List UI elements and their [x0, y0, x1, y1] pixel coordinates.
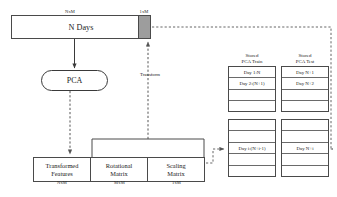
- table-row: [282, 120, 328, 131]
- table-row: [229, 154, 275, 165]
- table-row: Day N+i: [282, 143, 328, 154]
- matrix-label-line2: Matrix: [110, 170, 127, 177]
- stored-pca-test-top-table: Day N+1 Day N+2: [281, 66, 329, 112]
- table-row: Day N+1: [282, 67, 328, 78]
- diagram-canvas: N Days NxM 1xM PCA Transform Transformed…: [0, 0, 337, 197]
- stored-pca-train-top-table: Day 1:N Day 2:(N+1): [228, 66, 276, 112]
- table-row: [229, 90, 275, 101]
- table-row: [282, 101, 328, 111]
- stored-pca-test-bottom-table: Day N+i: [281, 119, 329, 177]
- table-row: Day i:(N+i-1): [229, 143, 275, 154]
- edge-matrices-to-tables: [206, 149, 224, 163]
- dim-label-transformed-features: NxM: [33, 179, 91, 186]
- dim-label-latest-day: 1xM: [131, 8, 157, 15]
- matrix-label-line2: Matrix: [167, 170, 184, 177]
- dim-label-rotational-matrix: MxM: [91, 179, 148, 186]
- table-row: [229, 131, 275, 142]
- dim-label-scaling-matrix: 1xM: [148, 179, 205, 186]
- table-row: [229, 120, 275, 131]
- dim-label-ndays: NxM: [40, 8, 100, 15]
- table-row: Day 1:N: [229, 67, 275, 78]
- table-row: [229, 166, 275, 176]
- matrix-label-line2: Features: [51, 170, 73, 177]
- table-row: [282, 166, 328, 176]
- latest-day-block: [138, 15, 151, 39]
- n-days-bar: N Days: [11, 15, 151, 39]
- bracket-matrices: [92, 139, 204, 157]
- table-row: Day N+2: [282, 78, 328, 89]
- stored-pca-test-header: Stored PCA Test: [281, 53, 329, 65]
- table-row: [282, 154, 328, 165]
- table-row: [282, 90, 328, 101]
- header-line2: PCA Test: [281, 59, 329, 65]
- transform-edge-label: Transform: [140, 70, 180, 79]
- pca-label: PCA: [67, 76, 83, 85]
- table-row: [282, 131, 328, 142]
- table-row: Day 2:(N+1): [229, 78, 275, 89]
- matrix-label-line1: Transformed: [46, 162, 79, 169]
- table-row: [229, 101, 275, 111]
- pca-node: PCA: [41, 70, 108, 91]
- matrix-label-line1: Rotational: [106, 162, 133, 169]
- header-line2: PCA Train: [228, 59, 276, 65]
- stored-pca-train-bottom-table: Day i:(N+i-1): [228, 119, 276, 177]
- n-days-label: N Days: [69, 23, 94, 32]
- stored-pca-train-header: Stored PCA Train: [228, 53, 276, 65]
- matrix-label-line1: Scaling: [166, 162, 185, 169]
